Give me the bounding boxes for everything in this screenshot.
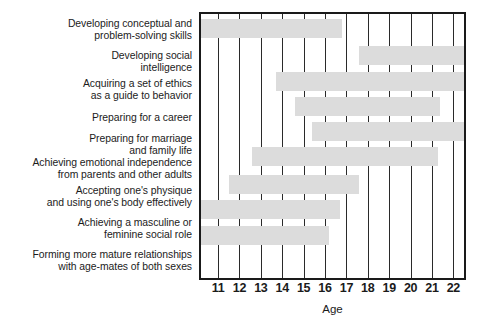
category-label-4: Preparing for a career bbox=[92, 112, 192, 124]
category-label-5: Preparing for marriage and family life bbox=[89, 133, 192, 156]
plot-inner bbox=[201, 14, 464, 278]
bar-task-5 bbox=[312, 122, 464, 141]
tick-label-11: 11 bbox=[212, 281, 225, 295]
tick-label-15: 15 bbox=[297, 281, 310, 295]
category-label-7: Accepting one's physique and using one's… bbox=[47, 185, 192, 208]
category-label-3: Acquiring a set of ethics as a guide to … bbox=[83, 78, 192, 101]
bar-task-1 bbox=[201, 19, 342, 38]
bar-task-6 bbox=[252, 147, 438, 166]
tick-label-19: 19 bbox=[383, 281, 396, 295]
tick-label-22: 22 bbox=[447, 281, 460, 295]
tick-label-18: 18 bbox=[361, 281, 374, 295]
bar-task-3 bbox=[276, 72, 464, 91]
gridline-age-17 bbox=[346, 14, 347, 278]
category-label-2: Developing social intelligence bbox=[111, 50, 192, 73]
x-axis-title: Age bbox=[199, 303, 466, 315]
category-label-1: Developing conceptual and problem-solvin… bbox=[68, 18, 192, 41]
tick-label-20: 20 bbox=[404, 281, 417, 295]
bar-task-2 bbox=[359, 46, 464, 65]
tick-label-14: 14 bbox=[276, 281, 289, 295]
chart-page: Developing conceptual and problem-solvin… bbox=[0, 0, 491, 333]
tick-label-13: 13 bbox=[254, 281, 267, 295]
bar-task-4 bbox=[295, 97, 440, 116]
category-label-8: Achieving a masculine or feminine social… bbox=[78, 217, 192, 240]
tick-label-17: 17 bbox=[340, 281, 353, 295]
tick-label-21: 21 bbox=[425, 281, 438, 295]
category-label-9: Forming more mature relationships with a… bbox=[33, 249, 192, 272]
tick-label-12: 12 bbox=[233, 281, 246, 295]
x-axis-tick-labels: 111213141516171819202122 bbox=[199, 281, 466, 303]
bar-task-8 bbox=[201, 200, 340, 219]
bar-task-7 bbox=[229, 175, 359, 194]
bar-task-9 bbox=[201, 226, 329, 245]
tick-label-16: 16 bbox=[318, 281, 331, 295]
plot-area bbox=[199, 12, 466, 280]
category-label-column: Developing conceptual and problem-solvin… bbox=[0, 0, 196, 333]
category-label-6: Achieving emotional independence from pa… bbox=[32, 157, 192, 180]
